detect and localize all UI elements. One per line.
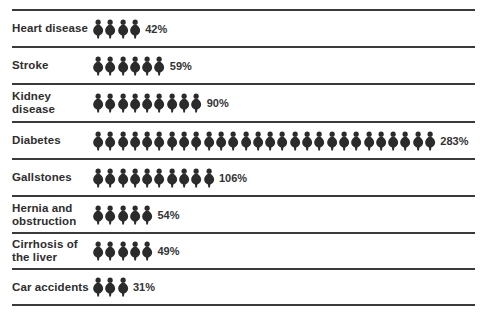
person-silhouette-icon	[129, 93, 141, 113]
person-silhouette-icon	[141, 168, 153, 188]
person-silhouette-icon	[117, 205, 129, 225]
person-silhouette-icon	[141, 93, 153, 113]
person-silhouette-icon	[227, 131, 239, 151]
label-line: Gallstones	[12, 171, 72, 183]
icon-group	[92, 277, 129, 297]
value-label: 283%	[440, 135, 468, 147]
person-silhouette-icon	[129, 168, 141, 188]
person-silhouette-icon	[92, 205, 104, 225]
label-line: obstruction	[12, 215, 76, 227]
person-silhouette-icon	[166, 168, 178, 188]
row-kidney-disease: Kidneydisease 90%	[12, 85, 478, 121]
label-line: Car accidents	[12, 281, 89, 293]
icon-group	[92, 19, 141, 39]
person-silhouette-icon	[387, 131, 399, 151]
row-cirrhosis-of-the-liver: Cirrhosis ofthe liver 49%	[12, 234, 478, 268]
person-silhouette-icon	[117, 241, 129, 261]
row-label: Gallstones	[12, 171, 92, 184]
value-label: 54%	[157, 209, 179, 221]
value-label: 59%	[170, 60, 192, 72]
value-label: 49%	[157, 245, 179, 257]
person-silhouette-icon	[190, 93, 202, 113]
person-silhouette-icon	[178, 131, 190, 151]
person-silhouette-icon	[289, 131, 301, 151]
row-diabetes: Diabetes 283%	[12, 123, 478, 158]
person-silhouette-icon	[129, 56, 141, 76]
row-car-accidents: Car accidents 31%	[12, 270, 478, 304]
person-silhouette-icon	[92, 168, 104, 188]
value-label: 90%	[207, 97, 229, 109]
person-silhouette-icon	[424, 131, 436, 151]
row-stroke: Stroke 59%	[12, 48, 478, 83]
person-silhouette-icon	[166, 131, 178, 151]
label-line: Kidney	[12, 90, 51, 102]
person-silhouette-icon	[92, 241, 104, 261]
value-label: 31%	[133, 281, 155, 293]
person-silhouette-icon	[190, 131, 202, 151]
pictogram-chart: Heart disease 42% Stroke 59% Kidneydisea…	[0, 0, 482, 313]
row-hernia-and-obstruction: Hernia andobstruction 54%	[12, 197, 478, 232]
person-silhouette-icon	[117, 56, 129, 76]
row-label: Cirrhosis ofthe liver	[12, 238, 92, 264]
person-silhouette-icon	[203, 168, 215, 188]
row-label: Diabetes	[12, 134, 92, 147]
person-silhouette-icon	[104, 205, 116, 225]
label-line: Hernia and	[12, 202, 72, 214]
person-silhouette-icon	[178, 93, 190, 113]
person-silhouette-icon	[117, 19, 129, 39]
row-gallstones: Gallstones 106%	[12, 160, 478, 195]
person-silhouette-icon	[301, 131, 313, 151]
person-silhouette-icon	[141, 241, 153, 261]
label-line: Diabetes	[12, 134, 61, 146]
icon-group	[92, 241, 153, 261]
person-silhouette-icon	[240, 131, 252, 151]
icon-group	[92, 205, 153, 225]
person-silhouette-icon	[104, 277, 116, 297]
person-silhouette-icon	[215, 131, 227, 151]
row-heart-disease: Heart disease 42%	[12, 11, 478, 46]
person-silhouette-icon	[104, 131, 116, 151]
person-silhouette-icon	[129, 19, 141, 39]
person-silhouette-icon	[141, 56, 153, 76]
row-label: Car accidents	[12, 281, 92, 294]
row-label: Stroke	[12, 59, 92, 72]
person-silhouette-icon	[129, 205, 141, 225]
person-silhouette-icon	[338, 131, 350, 151]
person-silhouette-icon	[375, 131, 387, 151]
person-silhouette-icon	[313, 131, 325, 151]
person-silhouette-icon	[129, 241, 141, 261]
value-label: 42%	[145, 23, 167, 35]
person-silhouette-icon	[104, 93, 116, 113]
person-silhouette-icon	[276, 131, 288, 151]
person-silhouette-icon	[399, 131, 411, 151]
person-silhouette-icon	[104, 56, 116, 76]
label-line: Stroke	[12, 59, 48, 71]
label-line: the liver	[12, 251, 57, 263]
person-silhouette-icon	[153, 168, 165, 188]
person-silhouette-icon	[166, 93, 178, 113]
person-silhouette-icon	[153, 93, 165, 113]
divider	[12, 304, 475, 306]
person-silhouette-icon	[203, 131, 215, 151]
label-line: Cirrhosis of	[12, 238, 78, 250]
person-silhouette-icon	[252, 131, 264, 151]
person-silhouette-icon	[92, 19, 104, 39]
person-silhouette-icon	[153, 56, 165, 76]
row-label: Hernia andobstruction	[12, 202, 92, 228]
icon-group	[92, 56, 166, 76]
person-silhouette-icon	[141, 205, 153, 225]
icon-group	[92, 168, 215, 188]
person-silhouette-icon	[92, 56, 104, 76]
icon-group	[92, 131, 436, 151]
person-silhouette-icon	[190, 168, 202, 188]
person-silhouette-icon	[92, 93, 104, 113]
person-silhouette-icon	[104, 241, 116, 261]
value-label: 106%	[219, 172, 247, 184]
person-silhouette-icon	[117, 168, 129, 188]
person-silhouette-icon	[117, 277, 129, 297]
person-silhouette-icon	[141, 131, 153, 151]
label-line: disease	[12, 103, 55, 115]
person-silhouette-icon	[412, 131, 424, 151]
icon-group	[92, 93, 203, 113]
row-label: Heart disease	[12, 22, 92, 35]
